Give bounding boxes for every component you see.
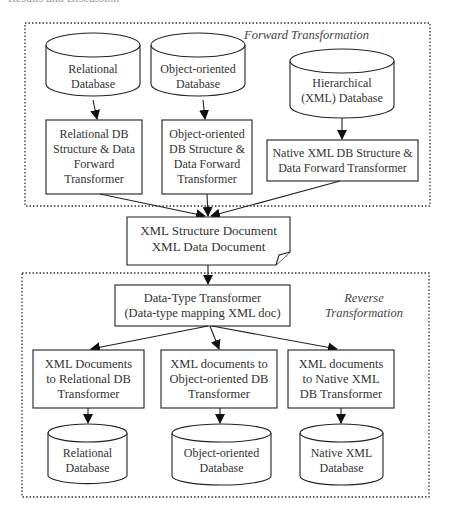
arrow-datatype-to-rel — [91, 326, 208, 349]
oo-reverse-transformer-label: XML documents to Object-oriented DB Tran… — [161, 350, 277, 408]
xml-document-label: XML Structure Document XML Data Document — [127, 217, 290, 261]
arrow-rel-transformer-to-doc — [100, 194, 205, 216]
target-relational-database-label: Relational Database — [48, 445, 127, 477]
datatype-transformer-label: Data-Type Transformer (Data-type mapping… — [115, 285, 290, 326]
object-oriented-database-label: Object-oriented Database — [151, 60, 245, 94]
rel-reverse-transformer-label: XML Documents to Relational DB Transform… — [33, 350, 144, 408]
reverse-transformation-label: Reverse Transformation — [318, 291, 410, 321]
xml-reverse-transformer-label: XML documents to Native XML DB Transform… — [288, 350, 394, 408]
arrow-datatype-to-xml — [212, 326, 337, 349]
arrow-datatype-to-oo — [210, 326, 219, 349]
arrow-rel-db-to-transformer — [93, 100, 97, 119]
target-native-xml-database-label: Native XML Database — [300, 445, 383, 477]
arrow-oo-db-to-transformer — [203, 100, 205, 119]
relational-database-label: Relational Database — [46, 60, 140, 94]
hierarchical-database-label: Hierarchical (XML) Database — [290, 74, 394, 108]
relational-forward-transformer-label: Relational DB Structure & Data Forward T… — [46, 120, 142, 194]
arrow-oo-transformer-to-doc — [207, 194, 208, 216]
cut-off-header-text: Results and Discussion — [8, 0, 119, 6]
target-oo-database-label: Object-oriented Database — [172, 445, 271, 477]
oo-forward-transformer-label: Object-oriented DB Structure & Data Forw… — [162, 120, 252, 194]
native-xml-forward-transformer-label: Native XML DB Structure & Data Forward T… — [267, 140, 418, 181]
forward-transformation-label: Forward Transformation — [244, 28, 369, 43]
